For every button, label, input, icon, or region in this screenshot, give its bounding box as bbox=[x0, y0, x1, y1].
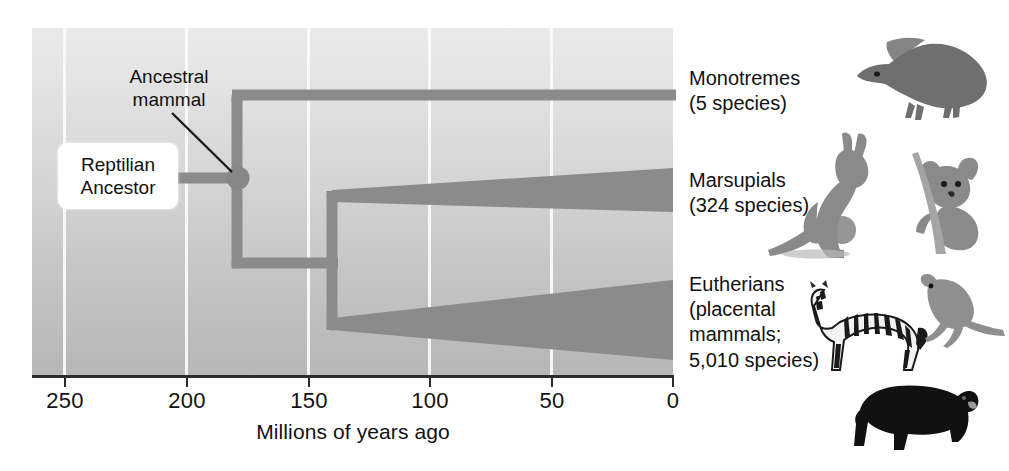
reptilian-ancestor-line2: Ancestor bbox=[81, 176, 156, 199]
phylogeny-figure: Reptilian Ancestor Ancestral mammal 250 … bbox=[0, 0, 1009, 471]
reptilian-ancestor-label-box: Reptilian Ancestor bbox=[58, 143, 178, 209]
gridline-150 bbox=[307, 28, 310, 376]
ancestral-mammal-line1: Ancestral bbox=[104, 66, 234, 89]
ancestral-mammal-label: Ancestral mammal bbox=[104, 66, 234, 112]
bear-illustration bbox=[840, 370, 990, 465]
tick-mark-200 bbox=[186, 378, 188, 387]
tick-mark-150 bbox=[308, 378, 310, 387]
tick-label-50: 50 bbox=[540, 388, 565, 414]
taxon-species-monotremes: (5 species) bbox=[689, 91, 800, 116]
tick-label-150: 150 bbox=[290, 388, 327, 414]
zebra-illustration bbox=[800, 278, 930, 378]
tick-label-0: 0 bbox=[667, 388, 679, 414]
taxon-name-monotremes: Monotremes bbox=[689, 66, 800, 91]
tick-mark-100 bbox=[429, 378, 431, 387]
tick-label-100: 100 bbox=[411, 388, 448, 414]
tick-mark-50 bbox=[551, 378, 553, 387]
reptilian-ancestor-line1: Reptilian bbox=[81, 153, 155, 176]
x-axis-title: Millions of years ago bbox=[32, 420, 674, 444]
tick-mark-0 bbox=[672, 378, 674, 387]
platypus-illustration bbox=[845, 24, 1005, 124]
tick-label-200: 200 bbox=[168, 388, 205, 414]
tick-label-250: 250 bbox=[46, 388, 83, 414]
koala-illustration bbox=[900, 150, 1006, 260]
mouse-illustration bbox=[915, 272, 1009, 348]
taxon-label-monotremes: Monotremes (5 species) bbox=[689, 66, 800, 116]
gridline-50 bbox=[550, 28, 553, 376]
tick-mark-250 bbox=[64, 378, 66, 387]
gridline-100 bbox=[428, 28, 431, 376]
x-axis-line bbox=[32, 375, 674, 378]
ancestral-mammal-line2: mammal bbox=[104, 89, 234, 112]
kangaroo-illustration bbox=[760, 130, 890, 265]
